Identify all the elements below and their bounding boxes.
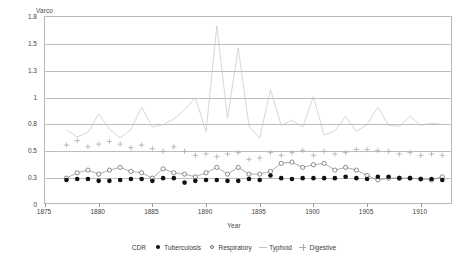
legend-marker-digestive-icon bbox=[299, 243, 307, 251]
legend-entry-digestive[interactable]: Digestive bbox=[299, 243, 336, 251]
chart-container: Varco 00.30.50.811.31.51.8 1875188018851… bbox=[0, 0, 468, 264]
legend-title: CDR bbox=[132, 244, 146, 251]
y-tick-label: 0.5 bbox=[0, 147, 37, 154]
legend-label: Digestive bbox=[309, 244, 336, 251]
y-tick-label: 1.3 bbox=[0, 66, 37, 73]
series-layer bbox=[45, 17, 453, 205]
y-tick-label: 1.5 bbox=[0, 39, 37, 46]
series-typhoid bbox=[66, 26, 442, 138]
x-axis-title: Year bbox=[0, 222, 468, 229]
y-tick-label: 1 bbox=[0, 93, 37, 100]
legend-label: Tuberculosis bbox=[164, 244, 201, 251]
legend-label: Respiratory bbox=[218, 244, 251, 251]
plot-area bbox=[44, 16, 452, 204]
x-tick-label: 1880 bbox=[90, 208, 104, 215]
y-tick-label: 0 bbox=[0, 201, 37, 208]
x-tick-label: 1900 bbox=[305, 208, 319, 215]
chart-legend: CDR TuberculosisRespiratoryTyphoidDigest… bbox=[0, 243, 468, 251]
series-digestive bbox=[64, 138, 445, 162]
y-tick-label: 1.8 bbox=[0, 13, 37, 20]
x-tick-label: 1905 bbox=[359, 208, 373, 215]
legend-marker-glyph bbox=[259, 247, 267, 248]
x-tick-label: 1885 bbox=[144, 208, 158, 215]
legend-label: Typhoid bbox=[269, 244, 292, 251]
legend-entry-tuberculosis[interactable]: Tuberculosis bbox=[154, 243, 201, 251]
x-tick-label: 1895 bbox=[252, 208, 266, 215]
legend-marker-respiratory-icon bbox=[208, 243, 216, 251]
legend-marker-typhoid-icon bbox=[259, 243, 267, 251]
legend-entry-typhoid[interactable]: Typhoid bbox=[259, 243, 292, 251]
y-tick-label: 0.3 bbox=[0, 174, 37, 181]
y-axis-title: Varco bbox=[36, 7, 53, 14]
legend-marker-glyph bbox=[156, 245, 160, 249]
x-tick-label: 1890 bbox=[198, 208, 212, 215]
x-tick-label: 1910 bbox=[413, 208, 427, 215]
legend-marker-tuberculosis-icon bbox=[154, 243, 162, 251]
y-tick-label: 0.8 bbox=[0, 120, 37, 127]
x-tick-label: 1875 bbox=[37, 208, 51, 215]
legend-entry-respiratory[interactable]: Respiratory bbox=[208, 243, 252, 251]
legend-marker-glyph bbox=[210, 245, 214, 249]
